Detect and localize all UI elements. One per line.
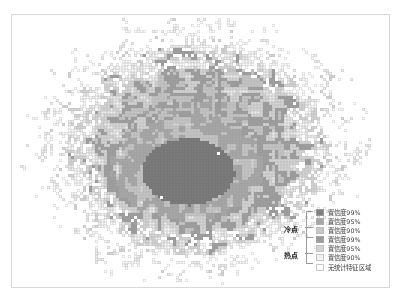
legend-label-hot-95: 置信度95% [328, 245, 360, 252]
legend-group-label-hot: 热点 [284, 250, 298, 260]
legend-swatch-cold-90 [316, 227, 324, 234]
map-legend: 冷点 置信度99% 置信度95% 置信度90% 热点 置信度99% 置信度95% [284, 206, 388, 274]
legend-bracket-tick-cold [305, 227, 313, 228]
legend-item-hot-95[interactable]: 置信度95% [316, 244, 360, 253]
legend-bracket-cold [306, 211, 313, 238]
legend-swatch-hot-99 [316, 236, 324, 243]
legend-item-hot-99[interactable]: 置信度99% [316, 235, 360, 244]
legend-swatch-hot-90 [316, 254, 324, 261]
legend-label-cold-99: 置信度99% [328, 209, 360, 216]
legend-bracket-hot [306, 237, 313, 264]
legend-item-cold-90[interactable]: 置信度90% [316, 226, 360, 235]
legend-item-hot-90[interactable]: 置信度90% [316, 253, 360, 262]
figure-canvas: 冷点 置信度99% 置信度95% 置信度90% 热点 置信度99% 置信度95% [0, 0, 401, 302]
legend-label-hot-90: 置信度90% [328, 254, 360, 261]
legend-swatch-cold-95 [316, 218, 324, 225]
legend-swatch-no-significance [316, 264, 324, 271]
legend-item-cold-99[interactable]: 置信度99% [316, 208, 360, 217]
legend-label-cold-95: 置信度95% [328, 218, 360, 225]
legend-group-label-cold: 冷点 [284, 224, 298, 234]
legend-swatch-cold-99 [316, 209, 324, 216]
legend-label-no-significance: 无统计特征区域 [328, 264, 371, 271]
legend-swatch-hot-95 [316, 245, 324, 252]
legend-bracket-tick-hot [305, 253, 313, 254]
legend-item-no-significance[interactable]: 无统计特征区域 [316, 263, 370, 272]
legend-label-hot-99: 置信度99% [328, 236, 360, 243]
legend-item-cold-95[interactable]: 置信度95% [316, 217, 360, 226]
legend-label-cold-90: 置信度90% [328, 227, 360, 234]
